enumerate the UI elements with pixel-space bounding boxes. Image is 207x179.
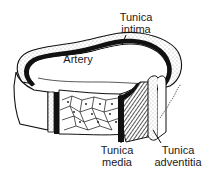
label-tunica-media-line1: Tunica [98, 144, 136, 156]
label-tunica-adventitia: Tunica adventitia [150, 144, 206, 168]
label-tunica-intima: Tunica intima [112, 11, 160, 35]
label-artery: Artery [60, 53, 96, 65]
label-tunica-intima-line2: intima [112, 23, 160, 35]
label-tunica-adventitia-line1: Tunica [150, 144, 206, 156]
right-cut-media [118, 82, 152, 142]
tunica-media-cells [59, 90, 124, 135]
label-tunica-intima-line1: Tunica [112, 11, 160, 23]
label-tunica-adventitia-line2: adventitia [150, 156, 206, 168]
right-adventitia-slab [148, 76, 166, 140]
label-tunica-media-line2: media [98, 156, 136, 168]
artery-diagram: Tunica intima Artery Tunica media Tunica… [0, 0, 207, 179]
label-tunica-media: Tunica media [98, 144, 136, 168]
